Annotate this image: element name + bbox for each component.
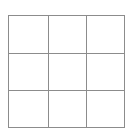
grid-cell-label <box>49 16 86 53</box>
grid-cell-r2c2[interactable] <box>87 91 125 128</box>
grid-cell-label <box>9 91 48 127</box>
grid-row <box>9 91 125 128</box>
grid-cell-r0c2[interactable] <box>87 16 125 54</box>
grid-cell-r0c1[interactable] <box>49 16 87 54</box>
grid-cell-label <box>87 91 124 127</box>
grid-cell-r2c1[interactable] <box>49 91 87 128</box>
grid-row <box>9 54 125 91</box>
diagram-canvas <box>0 0 129 131</box>
grid-cell-label <box>49 54 86 90</box>
grid-cell-label <box>9 54 48 90</box>
grid-cell-label <box>49 91 86 127</box>
grid-cell-r1c0[interactable] <box>9 54 49 91</box>
grid-body <box>9 16 125 128</box>
grid-cell-label <box>9 16 48 53</box>
grid-cell-r1c1[interactable] <box>49 54 87 91</box>
grid-row <box>9 16 125 54</box>
grid-cell-label <box>87 54 124 90</box>
grid-cell-r2c0[interactable] <box>9 91 49 128</box>
grid-3x3 <box>8 15 125 128</box>
grid-cell-r1c2[interactable] <box>87 54 125 91</box>
grid-cell-label <box>87 16 124 53</box>
grid-cell-r0c0[interactable] <box>9 16 49 54</box>
